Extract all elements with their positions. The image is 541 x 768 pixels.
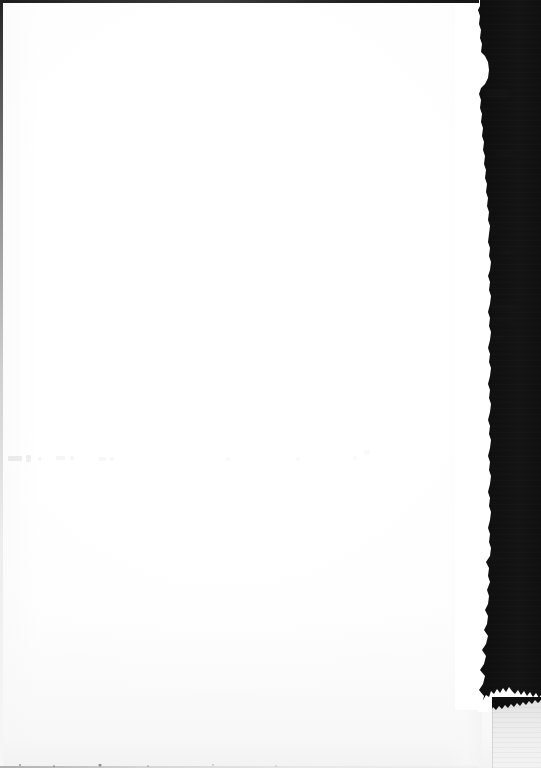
scanned-page-canvas	[0, 0, 541, 768]
grey-block-divider-line	[492, 700, 493, 768]
page-edge-left	[0, 0, 3, 768]
torn-page-edge	[455, 0, 505, 710]
page-edge-top	[0, 0, 479, 3]
grey-block-lower-right	[492, 697, 541, 768]
grey-block-ragged-top	[492, 697, 541, 713]
